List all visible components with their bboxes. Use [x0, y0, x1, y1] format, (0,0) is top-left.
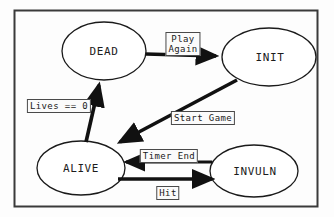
node-invuln[interactable]: [210, 145, 298, 197]
node-dead[interactable]: [62, 22, 146, 80]
edge-label-lives-zero: Lives == 0: [27, 99, 91, 113]
edge-alive-to-dead: [86, 85, 99, 142]
edge-label-play-again: Play Again: [165, 32, 200, 56]
edge-label-start-game: Start Game: [171, 111, 235, 125]
edge-label-timer-end: Timer End: [140, 149, 198, 163]
node-init[interactable]: [222, 28, 316, 86]
edge-label-hit: Hit: [156, 186, 179, 200]
state-diagram-canvas: DEAD INIT ALIVE INVULN Play Again Start …: [0, 0, 334, 217]
node-alive[interactable]: [37, 141, 125, 195]
